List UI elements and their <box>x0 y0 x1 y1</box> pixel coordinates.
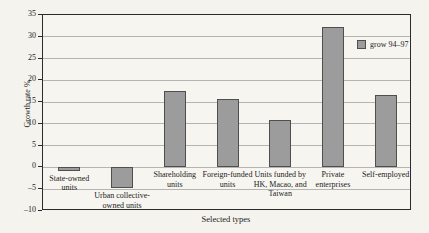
y-tick-label: 15 <box>10 96 36 106</box>
y-tick-label: 10 <box>10 118 36 128</box>
y-tick-label: –5 <box>10 183 36 193</box>
y-tick-mark <box>38 188 42 189</box>
y-tick-label: 25 <box>10 53 36 63</box>
category-label: Urban collective-owned units <box>74 191 170 210</box>
y-tick-label: 30 <box>10 31 36 41</box>
bar-foreign-funded-units <box>217 99 239 167</box>
y-tick-mark <box>38 145 42 146</box>
y-tick-mark <box>38 14 42 15</box>
legend: grow 94–97 <box>357 40 408 49</box>
y-tick-mark <box>38 166 42 167</box>
y-tick-mark <box>38 79 42 80</box>
bar-self-employed <box>375 95 397 167</box>
bar-state-owned-units <box>58 167 80 170</box>
bar-private-enterprises <box>322 27 344 168</box>
x-axis-title: Selected types <box>202 214 251 224</box>
grid-line <box>43 80 410 81</box>
y-tick-label: 5 <box>10 140 36 150</box>
grid-line <box>43 36 410 37</box>
bar-chart-figure: Growth rate % grow 94–97 State-ownedunit… <box>0 0 429 233</box>
y-tick-mark <box>38 210 42 211</box>
y-tick-label: 20 <box>10 74 36 84</box>
y-tick-mark <box>38 58 42 59</box>
grid-line <box>43 58 410 59</box>
y-tick-label: 0 <box>10 161 36 171</box>
legend-label: grow 94–97 <box>370 40 408 49</box>
category-label: Self-employed <box>338 170 429 180</box>
y-tick-label: 35 <box>10 9 36 19</box>
y-tick-mark <box>38 123 42 124</box>
bar-units-funded-by-hk-macao-and-taiwan <box>269 120 291 167</box>
legend-swatch <box>357 40 366 49</box>
y-tick-label: –10 <box>10 205 36 215</box>
bar-shareholding-units <box>164 91 186 167</box>
plot-area: grow 94–97 State-ownedunitsUrban collect… <box>42 14 411 210</box>
y-tick-mark <box>38 101 42 102</box>
y-tick-mark <box>38 36 42 37</box>
